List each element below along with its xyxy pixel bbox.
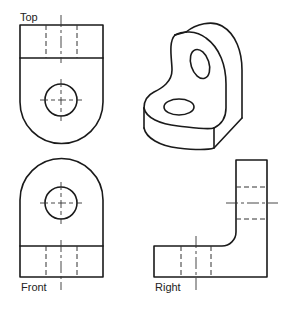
technical-drawing	[0, 0, 286, 312]
right-view	[154, 160, 278, 290]
iso-upright-front-face	[175, 32, 226, 128]
isometric-view	[144, 23, 242, 149]
iso-upright-left-curve	[144, 35, 175, 108]
iso-upright-hole	[187, 47, 213, 81]
top-view-label: Top	[20, 12, 38, 23]
right-view-outline	[154, 160, 267, 277]
iso-upright-back-edge	[186, 23, 242, 118]
iso-base-hole	[164, 99, 194, 115]
front-view	[20, 158, 103, 290]
front-view-label: Front	[21, 282, 47, 293]
iso-base-bottom	[144, 118, 242, 150]
right-view-label: Right	[155, 282, 181, 293]
top-view	[20, 15, 103, 144]
iso-base-top	[144, 108, 214, 129]
front-view-outline	[20, 158, 103, 277]
